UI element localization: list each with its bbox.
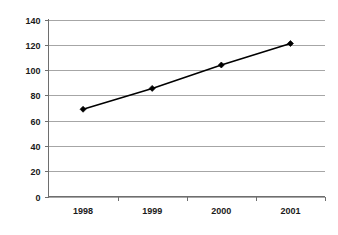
line-chart: 020406080100120140 1998199920002001 — [0, 0, 338, 235]
x-axis-tick-label: 2000 — [211, 206, 231, 216]
y-axis-tick-label: 120 — [25, 41, 40, 51]
y-axis-tick-label: 40 — [30, 142, 40, 152]
x-axis-tick-label: 2001 — [280, 206, 300, 216]
x-axis-tick-label: 1998 — [73, 206, 93, 216]
x-axis-tick-label: 1999 — [142, 206, 162, 216]
y-axis-tick-label: 80 — [30, 91, 40, 101]
y-axis-tick-label: 100 — [25, 66, 40, 76]
chart-canvas: 020406080100120140 1998199920002001 — [0, 0, 338, 235]
y-axis-tick-label: 20 — [30, 167, 40, 177]
y-axis-tick-label: 0 — [35, 193, 40, 203]
chart-background — [0, 0, 338, 235]
y-axis-tick-label: 60 — [30, 117, 40, 127]
y-axis-tick-label: 140 — [25, 16, 40, 26]
